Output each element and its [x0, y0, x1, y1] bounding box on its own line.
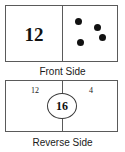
dot-icon-2	[94, 24, 101, 31]
dot-icon-4	[77, 39, 84, 46]
reverse-side-card: 12 4 16	[5, 80, 118, 132]
front-card-number: 12	[6, 24, 62, 43]
front-side-caption: Front Side	[0, 67, 125, 77]
dot-icon-3	[99, 34, 106, 41]
reverse-card-sum-circle: 16	[47, 93, 77, 119]
front-card-right-half	[63, 6, 117, 61]
reverse-card-right-number: 4	[84, 87, 98, 95]
reverse-card-sum-value: 16	[56, 100, 68, 112]
front-side-card: 12	[5, 5, 118, 62]
domino-card-figure: 12 Front Side 12 4 16 Reverse Side	[0, 0, 125, 152]
reverse-side-caption: Reverse Side	[0, 138, 125, 148]
front-card-left-half: 12	[6, 6, 62, 61]
dot-icon-1	[75, 18, 82, 25]
reverse-card-left-number: 12	[28, 87, 42, 95]
